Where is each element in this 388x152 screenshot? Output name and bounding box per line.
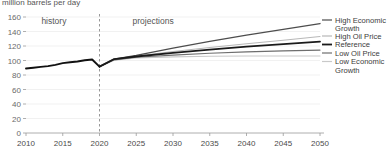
y-tick-label: 100 xyxy=(8,57,22,66)
x-tick-label: 2035 xyxy=(201,139,219,148)
y-tick-label: 140 xyxy=(8,28,22,37)
series-line-history xyxy=(26,59,100,68)
x-tick-label: 2015 xyxy=(54,139,72,148)
x-tick-label: 2010 xyxy=(17,139,35,148)
history-label: history xyxy=(41,16,67,26)
series-line-high-economic-growth xyxy=(100,24,321,67)
x-tick-label: 2030 xyxy=(164,139,182,148)
x-tick-label: 2025 xyxy=(127,139,145,148)
y-tick-label: 60 xyxy=(12,86,21,95)
y-tick-label: 20 xyxy=(12,115,21,124)
y-tick-label: 120 xyxy=(8,42,22,51)
line-chart: 1601401201008060402002010201520202025203… xyxy=(0,0,388,152)
series-line-reference xyxy=(100,42,321,67)
x-tick-label: 2020 xyxy=(91,139,109,148)
chart-container: million barrels per day 1601401201008060… xyxy=(0,0,388,152)
y-tick-label: 40 xyxy=(12,100,21,109)
y-tick-label: 160 xyxy=(8,13,22,22)
projections-label: projections xyxy=(133,16,174,26)
legend-label-4-line2: Growth xyxy=(335,66,359,75)
y-tick-label: 80 xyxy=(12,71,21,80)
x-tick-label: 2045 xyxy=(274,139,292,148)
x-tick-label: 2050 xyxy=(311,139,329,148)
x-tick-label: 2040 xyxy=(238,139,256,148)
y-tick-label: 0 xyxy=(17,129,22,138)
